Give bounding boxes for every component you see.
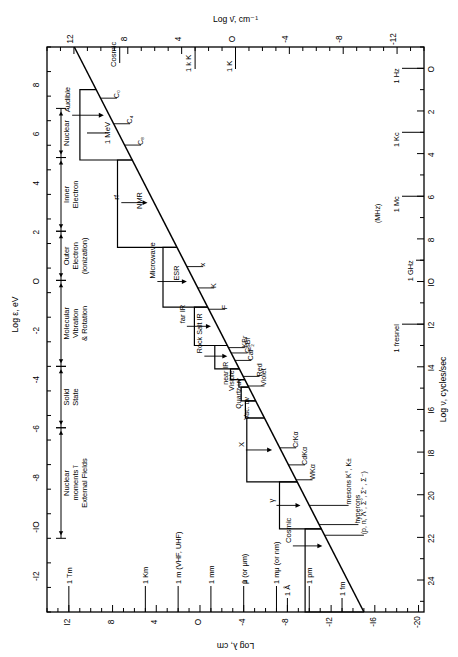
energy-band-label: moments ĩ [71, 465, 80, 501]
energy-annotation-1mev: 1 MeV [87, 121, 112, 144]
region-label-esr: ESR [172, 265, 181, 280]
bottom-axis-tick-label: -4 [238, 618, 247, 626]
energy-band-label: State [71, 388, 80, 406]
energy-band-arrow [59, 359, 63, 363]
callout-label-rock-salt-ir: Rock Salt IR [195, 313, 204, 353]
diagonal-tick-label: x [198, 263, 207, 267]
left-axis-tick-label: -IO [32, 521, 41, 532]
bottom-axis-tick-label: I2 [63, 618, 72, 625]
diagonal-tick-label: CrKα [291, 431, 300, 448]
energy-band-solid-state: SolidState [56, 366, 80, 427]
spectrum-chart-svg: -12-8-4O4812Log ν̄, cm⁻¹1 K1 k KCosmicI2… [0, 0, 458, 657]
callout-label-microwave: Microwave [148, 242, 157, 278]
energy-band-label: External Fields [80, 458, 89, 508]
left-axis: 8642O-2-4-6-8-IO-I2Log ε, eV [10, 47, 51, 612]
top-annotation-cosmic: Cosmic [109, 41, 118, 67]
top-axis-title: Log ν̄, cm⁻¹ [213, 14, 258, 24]
top-axis-tick-label: -12 [389, 33, 398, 45]
frequency-annotation-mhz: (MHz) [373, 204, 382, 224]
energy-band-label: Solid [62, 389, 71, 406]
energy-band-label: Outer [62, 246, 71, 265]
right-axis-tick-label: 24 [427, 576, 436, 586]
energy-band-arrow [59, 369, 63, 373]
callout-x-ray: X [237, 442, 272, 452]
frequency-marker-label: 1 fresnel [392, 324, 401, 353]
region-label-vac-uv: Vac. uv [243, 396, 250, 419]
diagonal-tick-label: (p, n, Λ°, Σ°, Σ⁺, Σ⁻) [360, 471, 368, 534]
energy-band-arrow [59, 283, 63, 287]
diagonal-tick-label: CdKα [300, 447, 309, 465]
right-axis-tick-label: O [427, 66, 436, 72]
bottom-axis: I284O-4-8-I2-I6-20Log λ, cm1 Tm1 Km1 m (… [47, 531, 422, 651]
wavelength-marker-label: 1 m (VHF, UHF) [174, 531, 183, 584]
figure-root: -12-8-4O4812Log ν̄, cm⁻¹1 K1 k KCosmicI2… [0, 0, 458, 657]
right-axis: O2468IOI2I4I6I8202224Log ν, cycles/sec1 … [373, 47, 448, 601]
top-axis-tick-label: 8 [120, 36, 129, 41]
energy-band-arrow [59, 421, 63, 425]
right-axis-tick-label: IO [427, 278, 436, 287]
wavelength-marker-label: 1 Km [141, 567, 150, 584]
diagonal-tick-label: C₀ [112, 90, 121, 98]
energy-band-arrow [59, 531, 63, 535]
right-axis-tick-label: I4 [427, 364, 436, 371]
energy-band-inner-electron: InnerElectron [56, 158, 80, 232]
spectral-step-esr [163, 247, 208, 307]
top-axis: -12-8-4O4812Log ν̄, cm⁻¹1 K1 k KCosmic [47, 14, 424, 72]
diagonal-tick-markers: C₀C₄C₈xKFKBrCsBrCaF₂RedVioletCrKαCdKαWKα… [101, 90, 368, 535]
right-axis-tick-label: 22 [427, 533, 436, 543]
wavelength-marker-label: 1 Å [283, 585, 292, 596]
bottom-axis-tick-label: -8 [281, 618, 290, 626]
callout-cosmic: Cosmic [284, 517, 323, 548]
left-axis-tick-label: -I2 [32, 571, 41, 581]
left-axis-tick-label: O [32, 278, 41, 284]
diagonal-tick-label: WKα [308, 464, 317, 480]
energy-band-outer-electron-ionization-: OuterElectron(ionization) [56, 231, 89, 280]
diagonal-tick-label: CaF₂ [246, 344, 255, 361]
energy-band-nuclear: Nuclear [56, 108, 71, 157]
right-axis-tick-label: 20 [427, 491, 436, 501]
top-annotation-1k: 1 K [225, 61, 234, 72]
bottom-axis-tick-label: -I6 [369, 617, 378, 627]
left-axis-tick-label: -8 [32, 474, 41, 482]
energy-band-label: Molecular [62, 307, 71, 340]
energy-band-arrow [59, 161, 63, 165]
top-axis-tick-label: 4 [174, 36, 183, 41]
energy-band-molecular-vibration-rotation: MolecularVibration& Rotation [56, 280, 89, 366]
energy-band-label: Electron [71, 181, 80, 209]
bottom-axis-tick-label: -I2 [325, 617, 334, 627]
right-axis-tick-label: 8 [427, 237, 436, 242]
bottom-axis-tick-label: 8 [107, 619, 116, 624]
region-label-nmr: NMR [135, 192, 144, 209]
energy-band-arrow [59, 431, 63, 435]
energy-band-label: (ionization) [80, 237, 89, 274]
callout-label-rf: rf [112, 194, 121, 200]
region-label-quartz-uv: Quartz uv [235, 378, 243, 409]
energy-band-arrow [59, 273, 63, 277]
frequency-marker-label: 1 Kc [392, 132, 401, 147]
diagonal-tick-label: mesons K°, K± [345, 458, 352, 504]
bottom-axis-title: Log λ, cm [217, 641, 254, 651]
right-axis-tick-label: 2 [427, 109, 436, 114]
right-axis-tick-label: I8 [427, 449, 436, 456]
diagonal-lambda-nu-line [74, 47, 364, 612]
diagonal-tick-label: F [220, 304, 229, 309]
callout-arrow [267, 448, 272, 453]
energy-band-label: Nuclear [62, 470, 71, 496]
left-axis-tick-label: -2 [32, 326, 41, 334]
frequency-marker-label: 1 GHz [406, 260, 415, 281]
callout-label-x-ray: X [237, 442, 246, 447]
top-axis-tick-label: 12 [66, 34, 75, 44]
wavelength-marker-label: 1 Tm [65, 567, 74, 584]
top-axis-tick-label: O [228, 36, 237, 42]
frequency-marker-label: 1 Mc [392, 196, 401, 212]
callout-arrow [99, 113, 104, 118]
energy-band-label: & Rotation [80, 306, 89, 341]
callout-label-audible: Audible [63, 87, 72, 112]
callout-label-gamma: γ [267, 498, 276, 502]
left-axis-tick-label: 6 [32, 131, 41, 136]
callout-arrow [222, 354, 227, 359]
callout-arrow [296, 503, 301, 508]
diagonal-tick-label: Violet [259, 368, 268, 386]
energy-band-nuclear-moments-in-external-fields: Nuclearmoments ĩExternal Fields [56, 428, 89, 539]
right-axis-tick-label: I2 [427, 321, 436, 328]
